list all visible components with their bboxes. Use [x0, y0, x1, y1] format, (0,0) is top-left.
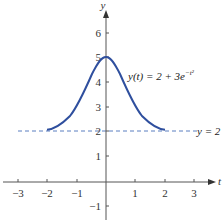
x-tick-label: 2	[162, 187, 168, 199]
y-tick-label: 6	[96, 27, 102, 39]
x-axis-arrow-icon	[208, 179, 216, 185]
x-tick-label: −1	[71, 187, 83, 199]
x-tick-label: −2	[41, 187, 53, 199]
y-tick-label: 1	[96, 150, 102, 162]
y-tick-label: 4	[96, 76, 102, 88]
equation-label: y(t) = 2 + 3e−t²	[127, 69, 195, 83]
x-tick-label: 1	[132, 187, 138, 199]
x-tick-label: −3	[12, 187, 24, 199]
y-tick-label: −1	[89, 200, 101, 212]
x-tick-label: 3	[191, 187, 197, 199]
y-axis-label: y	[100, 0, 106, 11]
y-axis-arrow-icon	[103, 10, 109, 18]
x-axis-label: t	[218, 175, 222, 187]
asymptote-label: y = 2	[196, 125, 221, 137]
y-tick-label: 2	[96, 125, 102, 137]
y-tick-label: 3	[96, 101, 102, 113]
chart: −3 −2 −1 1 2 3 6 5 4 3 2 1 −1 y t y(t) =…	[0, 0, 222, 220]
